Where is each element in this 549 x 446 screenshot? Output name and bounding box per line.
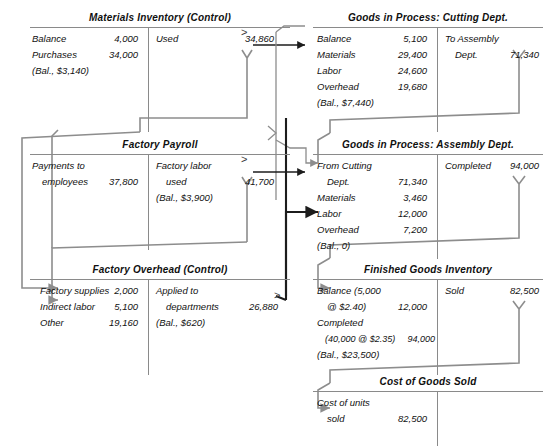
entry-row: Balance (5,000	[317, 283, 435, 299]
entry-amount: 3,460	[403, 190, 427, 206]
entry-amount: 29,400	[398, 47, 427, 63]
entry-row: Used 34,860	[156, 31, 284, 47]
entry-label: Cost of units	[317, 395, 370, 411]
entry-label: (40,000 @ $2.35)	[325, 331, 395, 347]
fork-marker-icon: >	[241, 26, 247, 38]
entry-label: Materials	[317, 47, 356, 63]
credit-side: Sold 82,500	[445, 283, 541, 299]
entry-label: Labor	[317, 63, 341, 79]
entry-label: Dept.	[455, 47, 478, 63]
entry-amount: 12,000	[398, 206, 427, 222]
entry-row: Applied to	[156, 283, 284, 299]
entry-row: Indirect labor 5,100	[32, 299, 146, 315]
entry-row-balance: (Bal., $23,500)	[317, 347, 435, 363]
credit-side: Applied to departments 26,880 (Bal., $62…	[156, 283, 284, 331]
entry-row: Purchases 34,000	[32, 47, 146, 63]
account-rule	[313, 154, 543, 155]
debit-side: Balance 4,000 Purchases 34,000 (Bal., $3…	[32, 31, 146, 79]
account-title: Finished Goods Inventory	[313, 264, 543, 275]
entry-row-balance: (Bal., $3,900)	[156, 190, 284, 206]
entry-label: (Bal., $23,500)	[317, 347, 379, 363]
entry-amount: 71,340	[398, 174, 427, 190]
account-divider	[148, 154, 149, 250]
entry-amount: 37,800	[109, 174, 138, 190]
entry-label: Indirect labor	[40, 299, 95, 315]
account-title: Materials Inventory (Control)	[30, 12, 290, 23]
entry-row: Labor 24,600	[317, 63, 435, 79]
entry-amount: 7,200	[403, 222, 427, 238]
wire-overhead-applied-to-assembly	[286, 212, 318, 300]
entry-amount: 34,000	[109, 47, 138, 63]
entry-label: Factory supplies	[40, 283, 109, 299]
entry-label: Other	[40, 315, 64, 331]
debit-side: Payments to employees 37,800	[32, 158, 146, 190]
entry-label: Overhead	[317, 222, 359, 238]
debit-side: Balance 5,100 Materials 29,400 Labor 24,…	[317, 31, 435, 111]
account-divider	[437, 154, 438, 259]
wire-materials-drop	[140, 50, 247, 132]
entry-amount: 24,600	[398, 63, 427, 79]
entry-label: departments	[166, 299, 219, 315]
entry-label: Applied to	[156, 283, 198, 299]
account-rule	[30, 154, 290, 155]
entry-row: Dept. 71,340	[445, 47, 541, 63]
account-rule	[30, 27, 290, 28]
entry-label: (Bal., $7,440)	[317, 95, 374, 111]
fork-marker-icon: >	[274, 289, 280, 301]
entry-label: Overhead	[317, 79, 359, 95]
wire-materials-fork-left	[247, 50, 252, 58]
account-title: Factory Payroll	[30, 139, 290, 150]
credit-side: Completed 94,000	[445, 158, 541, 174]
entry-amount: 94,000	[407, 331, 435, 347]
entry-label: From Cutting	[317, 158, 372, 174]
wire-finished-fork	[519, 301, 525, 309]
account-rule	[313, 279, 543, 280]
entry-amount: 94,000	[510, 158, 539, 174]
entry-label: Materials	[317, 190, 356, 206]
entry-label: Sold	[445, 283, 464, 299]
entry-label: Payments to	[32, 158, 85, 174]
entry-amount: 2,000	[114, 283, 138, 299]
entry-row: employees 37,800	[32, 174, 146, 190]
account-divider	[437, 27, 438, 132]
entry-row: Factory labor	[156, 158, 284, 174]
entry-label: Completed	[445, 158, 491, 174]
entry-row-balance: (Bal., $620)	[156, 315, 284, 331]
debit-side: From Cutting Dept. 71,340 Materials 3,46…	[317, 158, 435, 254]
entry-label: @ $2.40)	[327, 299, 366, 315]
entry-amount: 5,100	[403, 31, 427, 47]
entry-label: Used	[156, 31, 178, 47]
entry-row-balance: (Bal., $7,440)	[317, 95, 435, 111]
entry-label: (Bal., $3,140)	[32, 63, 89, 79]
account-divider	[437, 391, 438, 446]
entry-amount: 82,500	[398, 411, 427, 427]
entry-row-balance: (Bal., 0)	[317, 238, 435, 254]
entry-amount: 26,880	[249, 299, 278, 315]
entry-label: used	[166, 174, 187, 190]
entry-row: Factory supplies 2,000	[32, 283, 146, 299]
entry-amount: 41,700	[245, 174, 274, 190]
entry-row: Cost of units	[317, 395, 435, 411]
entry-label: (Bal., $3,900)	[156, 190, 213, 206]
entry-row: Materials 3,460	[317, 190, 435, 206]
fork-marker-icon: >	[241, 153, 247, 165]
entry-row: Overhead 19,680	[317, 79, 435, 95]
wire-assembly-fork	[519, 176, 525, 184]
entry-row: departments 26,880	[156, 299, 284, 315]
entry-row: used 41,700	[156, 174, 284, 190]
account-rule	[313, 391, 543, 392]
credit-side: Factory labor used 41,700 (Bal., $3,900)	[156, 158, 284, 206]
debit-side: Cost of units sold 82,500	[317, 395, 435, 427]
entry-row: To Assembly	[445, 31, 541, 47]
entry-amount: 19,160	[109, 315, 138, 331]
entry-row: Balance 4,000	[32, 31, 146, 47]
entry-row: sold 82,500	[317, 411, 435, 427]
entry-row: @ $2.40) 12,000	[317, 299, 435, 315]
entry-label: Factory labor	[156, 158, 211, 174]
credit-side: Used 34,860	[156, 31, 284, 47]
entry-label: employees	[42, 174, 88, 190]
debit-side: Factory supplies 2,000 Indirect labor 5,…	[32, 283, 146, 331]
entry-amount: 34,860	[245, 31, 274, 47]
account-title: Goods in Process: Assembly Dept.	[313, 139, 543, 150]
